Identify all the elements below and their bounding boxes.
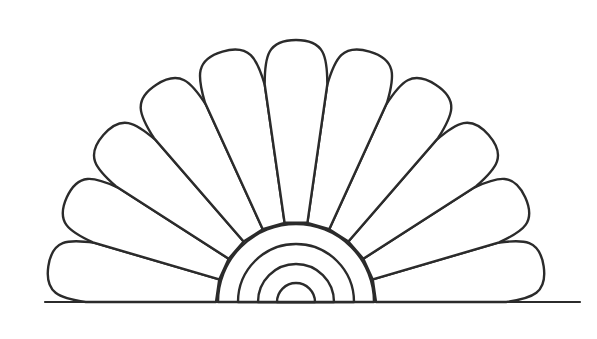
fan-illustration (0, 0, 597, 339)
fan-drawing (0, 0, 597, 339)
